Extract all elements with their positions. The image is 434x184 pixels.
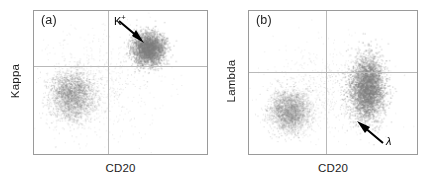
panel-b: (b) Lambda CD20: [217, 0, 434, 184]
x-axis-label-b: CD20: [248, 162, 418, 174]
plot-area-b: [248, 10, 418, 155]
quadrant-line-vertical-a: [108, 11, 109, 154]
panel-label-a: (a): [41, 13, 57, 27]
panel-a: (a) Kappa CD20 K+: [0, 0, 217, 184]
panel-label-b: (b): [256, 13, 272, 27]
scatter-plot-b: [249, 11, 417, 154]
annotation-lambda: λ: [386, 136, 391, 147]
quadrant-line-horizontal-a: [34, 66, 207, 67]
y-axis-label-b: Lambda: [225, 50, 237, 112]
quadrant-line-vertical-b: [326, 11, 327, 154]
annotation-kappa-positive: K+: [114, 14, 126, 27]
annotation-kappa-superscript: +: [121, 13, 125, 22]
plot-area-a: [33, 10, 208, 155]
y-axis-label-a: Kappa: [9, 53, 21, 109]
scatter-plot-a: [34, 11, 207, 154]
flow-cytometry-figure: (a) Kappa CD20 K+ (b) Lambda CD20 λ: [0, 0, 434, 184]
quadrant-line-horizontal-b: [249, 72, 417, 73]
x-axis-label-a: CD20: [33, 162, 208, 174]
